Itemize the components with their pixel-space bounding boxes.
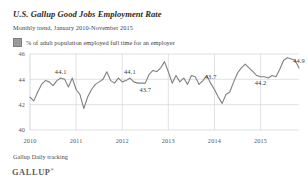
y-axis-tick-label: 44 — [18, 76, 25, 83]
chart-subtitle: Monthly trend, January 2010-November 201… — [13, 24, 133, 31]
x-axis-tick-label: 2015 — [254, 137, 267, 144]
chart-legend: % of adult population employed full time… — [13, 38, 175, 47]
data-point-label: 44.9 — [293, 57, 305, 64]
gallup-chart-figure: U.S. Gallup Good Jobs Employment Rate Mo… — [0, 0, 308, 181]
chart-plot-area: 4042444620102011201220132014201544.144.1… — [0, 48, 308, 148]
registered-mark: ® — [51, 167, 54, 172]
y-axis-tick-label: 40 — [18, 126, 25, 133]
source-note: Gallup Daily tracking — [13, 153, 68, 160]
x-axis-tick-label: 2011 — [70, 137, 83, 144]
data-point-label: 43.7 — [139, 86, 151, 93]
y-axis-tick-label: 42 — [18, 101, 25, 108]
line-chart-svg: 4042444620102011201220132014201544.144.1… — [0, 48, 308, 148]
page-title: U.S. Gallup Good Jobs Employment Rate — [13, 9, 162, 19]
data-point-label: 44.1 — [55, 68, 67, 75]
x-axis-tick-label: 2012 — [116, 137, 129, 144]
legend-label: % of adult population employed full time… — [26, 39, 175, 46]
gallup-logo: GALLUP® — [12, 167, 54, 177]
x-axis-tick-label: 2013 — [162, 137, 175, 144]
x-axis-tick-label: 2014 — [208, 137, 221, 144]
x-axis-tick-label: 2010 — [23, 137, 36, 144]
data-point-label: 44.2 — [255, 79, 267, 86]
brand-text: GALLUP — [12, 168, 51, 177]
y-axis-tick-label: 46 — [18, 50, 25, 57]
data-point-label: 44.1 — [124, 68, 136, 75]
data-point-label: 43.7 — [205, 73, 217, 80]
legend-swatch-icon — [13, 38, 22, 47]
